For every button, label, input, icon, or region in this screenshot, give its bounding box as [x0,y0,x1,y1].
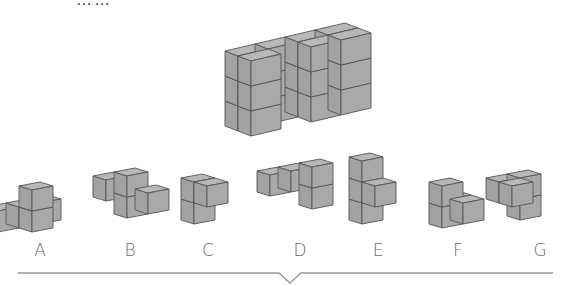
cube-face [512,182,533,207]
answer-options [0,153,541,232]
option-figure-c [181,174,228,224]
puzzle-canvas [0,0,571,285]
option-figure-d [257,159,333,209]
cube-face [463,199,484,224]
target-solid-figure [225,23,371,136]
option-label-g[interactable]: G [533,240,546,260]
option-figure-g [486,170,541,220]
cube-face [148,189,169,214]
option-figure-b [93,168,169,218]
cube-face [312,163,333,188]
option-label-f[interactable]: F [453,240,463,260]
target-solid [225,23,371,136]
option-figure-e [349,153,396,224]
cube-face [207,182,228,207]
option-figure-a [0,182,61,232]
option-label-b[interactable]: B [124,240,135,260]
option-label-a[interactable]: A [34,240,46,260]
option-figure-f [429,178,484,228]
cube-face [32,186,53,211]
cube-face [375,182,396,207]
option-label-c[interactable]: C [202,240,214,260]
option-label-e[interactable]: E [373,240,384,260]
baseline-divider-with-arrow [18,273,553,283]
option-label-d[interactable]: D [293,240,306,260]
